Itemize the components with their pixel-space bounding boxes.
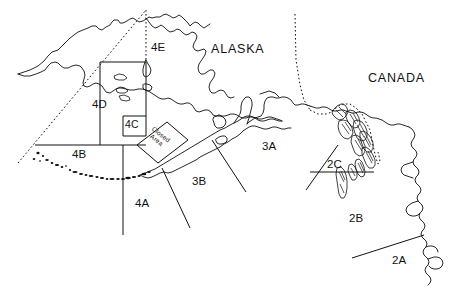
country-label-canada: CANADA [368, 72, 425, 85]
area-label-4e: 4E [151, 42, 165, 54]
area-label-4b: 4B [72, 149, 86, 161]
coastline-western-alaska [122, 18, 234, 116]
area-label-4d: 4D [92, 99, 107, 111]
coastline-kodiak-cook-inlet [213, 91, 310, 144]
area-label-2c: 2C [327, 159, 342, 171]
area-label-3b: 3B [192, 176, 206, 188]
boundary-dotted-bering-west [18, 10, 146, 163]
map-canvas: ALASKA CANADA 4E 4D 4C 4B 4A 3B 3A 2C 2B… [0, 0, 456, 290]
boundary-4a-3b [162, 168, 190, 228]
boundary-dotted-canada-border [295, 14, 310, 110]
area-label-2a: 2A [392, 255, 406, 267]
country-label-alaska: ALASKA [211, 43, 264, 56]
area-label-4a: 4A [135, 198, 149, 210]
islands-southeast-archipelago [332, 104, 375, 198]
boundary-3b-3a [212, 140, 246, 192]
area-label-4c: 4C [125, 119, 139, 130]
area-label-3a: 3A [262, 141, 276, 153]
area-label-2b: 2B [349, 213, 363, 225]
boundary-2b-2a [352, 235, 424, 258]
islands-bering-sea [114, 74, 130, 101]
aleutian-island-chain [33, 152, 151, 180]
coastline-northwest-alaska [18, 14, 210, 93]
coastline-southeast-alaska [401, 127, 443, 285]
